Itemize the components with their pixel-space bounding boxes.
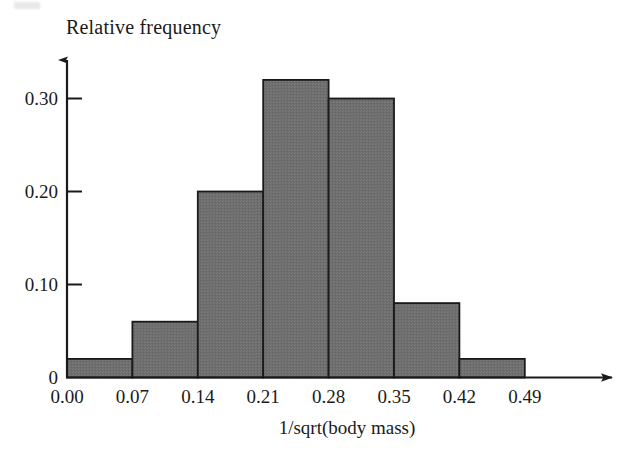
x-tick-label: 0.21 xyxy=(233,387,293,406)
x-tick-label: 0.28 xyxy=(299,387,359,406)
histogram-bar xyxy=(329,99,394,378)
histogram-bar xyxy=(394,303,459,377)
y-tick-label: 0 xyxy=(49,368,59,387)
histogram-bar xyxy=(263,80,328,378)
histogram-bar xyxy=(198,192,263,378)
x-tick-label: 0.42 xyxy=(429,387,489,406)
histogram-bar xyxy=(459,359,524,378)
plot-area: 00.100.200.30 0.000.070.140.210.280.350.… xyxy=(0,0,640,454)
y-tick-label: 0.20 xyxy=(25,182,58,201)
x-tick-label: 0.00 xyxy=(37,387,97,406)
x-tick-label: 0.35 xyxy=(364,387,424,406)
y-tick-marks xyxy=(67,99,82,285)
y-tick-label: 0.30 xyxy=(25,89,58,108)
histogram-bar xyxy=(132,322,197,378)
x-tick-label: 0.07 xyxy=(102,387,162,406)
bar-series xyxy=(67,80,525,378)
x-tick-label: 0.14 xyxy=(168,387,228,406)
histogram-figure: Relative frequency xyxy=(0,0,640,454)
histogram-bar xyxy=(67,359,132,378)
x-tick-label: 0.49 xyxy=(495,387,555,406)
y-tick-label: 0.10 xyxy=(25,275,58,294)
x-axis-title: 1/sqrt(body mass) xyxy=(0,416,640,440)
